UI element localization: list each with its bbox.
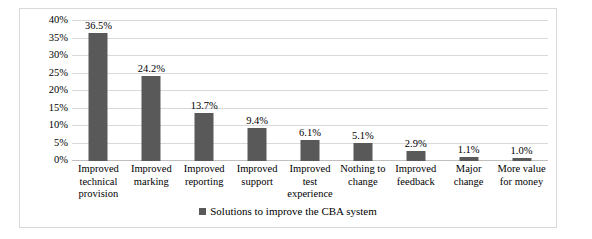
- bar[interactable]: [248, 128, 267, 161]
- legend-swatch-icon: [199, 208, 206, 215]
- bar-slot: 13.7%: [178, 20, 231, 161]
- bar-slot: 6.1%: [284, 20, 337, 161]
- bar-value-label: 24.2%: [138, 63, 165, 74]
- x-axis-category-label: Improvedtechnicalprovision: [72, 163, 125, 201]
- x-axis-category-label: Improvedmarking: [125, 163, 178, 188]
- category-label-line: provision: [72, 188, 125, 201]
- x-axis-category-label: More valuefor money: [495, 163, 548, 188]
- category-label-line: Nothing to: [336, 163, 389, 176]
- x-axis-category-label: Improved testexperience: [284, 163, 337, 201]
- category-label-line: Major change: [442, 163, 495, 188]
- category-label-line: Improved: [178, 163, 231, 176]
- bar-slot: 1.0%: [495, 20, 548, 161]
- category-label-line: Improved: [72, 163, 125, 176]
- bar-slot: 1.1%: [442, 20, 495, 161]
- bar-value-label: 36.5%: [85, 20, 112, 31]
- category-label-line: change: [336, 176, 389, 189]
- bar-value-label: 5.1%: [352, 130, 374, 141]
- bar[interactable]: [89, 33, 108, 161]
- y-axis-tick-label: 30%: [28, 50, 68, 60]
- x-axis-category-label: Improvedfeedback: [389, 163, 442, 188]
- bar[interactable]: [195, 113, 214, 161]
- bar[interactable]: [300, 140, 319, 161]
- bar[interactable]: [142, 76, 161, 161]
- category-label-line: support: [231, 176, 284, 189]
- bar[interactable]: [512, 158, 531, 162]
- y-axis-tick-label: 15%: [28, 103, 68, 113]
- bar-slot: 36.5%: [72, 20, 125, 161]
- y-axis-tick-label: 35%: [28, 33, 68, 43]
- category-label-line: for money: [495, 176, 548, 189]
- x-axis-category-labels: ImprovedtechnicalprovisionImprovedmarkin…: [72, 163, 548, 205]
- category-label-line: feedback: [389, 176, 442, 189]
- category-label-line: marking: [125, 176, 178, 189]
- y-axis-tick-label: 0%: [28, 155, 68, 165]
- bar-value-label: 2.9%: [405, 138, 427, 149]
- category-label-line: experience: [284, 188, 337, 201]
- bar-value-label: 6.1%: [299, 127, 321, 138]
- category-label-line: reporting: [178, 176, 231, 189]
- bar[interactable]: [459, 157, 478, 161]
- x-axis-category-label: Improvedreporting: [178, 163, 231, 188]
- y-axis: 40%35%30%25%20%15%10%5%0%: [24, 20, 68, 160]
- bar-value-label: 9.4%: [246, 115, 268, 126]
- bar-value-label: 13.7%: [191, 100, 218, 111]
- x-axis-category-label: Nothing tochange: [336, 163, 389, 188]
- y-axis-tick-label: 5%: [28, 138, 68, 148]
- bar-value-label: 1.0%: [511, 145, 533, 156]
- y-axis-tick-label: 25%: [28, 68, 68, 78]
- bar-slot: 9.4%: [231, 20, 284, 161]
- bar[interactable]: [353, 143, 372, 161]
- y-axis-tick-label: 10%: [28, 120, 68, 130]
- chart-legend: Solutions to improve the CBA system: [20, 205, 556, 217]
- category-label-line: Improved: [389, 163, 442, 176]
- category-label-line: Improved test: [284, 163, 337, 188]
- bar[interactable]: [406, 151, 425, 161]
- category-label-line: Improved: [231, 163, 284, 176]
- category-label-line: More value: [495, 163, 548, 176]
- legend-label: Solutions to improve the CBA system: [210, 205, 377, 217]
- category-label-line: technical: [72, 176, 125, 189]
- x-axis-category-label: Improvedsupport: [231, 163, 284, 188]
- bar-slot: 24.2%: [125, 20, 178, 161]
- bar-slot: 5.1%: [336, 20, 389, 161]
- bar-value-label: 1.1%: [458, 144, 480, 155]
- chart-frame: 40%35%30%25%20%15%10%5%0% 36.5%24.2%13.7…: [19, 8, 557, 228]
- x-axis-category-label: Major change: [442, 163, 495, 188]
- y-axis-tick-label: 40%: [28, 15, 68, 25]
- bar-slot: 2.9%: [389, 20, 442, 161]
- y-axis-tick-label: 20%: [28, 85, 68, 95]
- category-label-line: Improved: [125, 163, 178, 176]
- bars-layer: 36.5%24.2%13.7%9.4%6.1%5.1%2.9%1.1%1.0%: [72, 20, 548, 161]
